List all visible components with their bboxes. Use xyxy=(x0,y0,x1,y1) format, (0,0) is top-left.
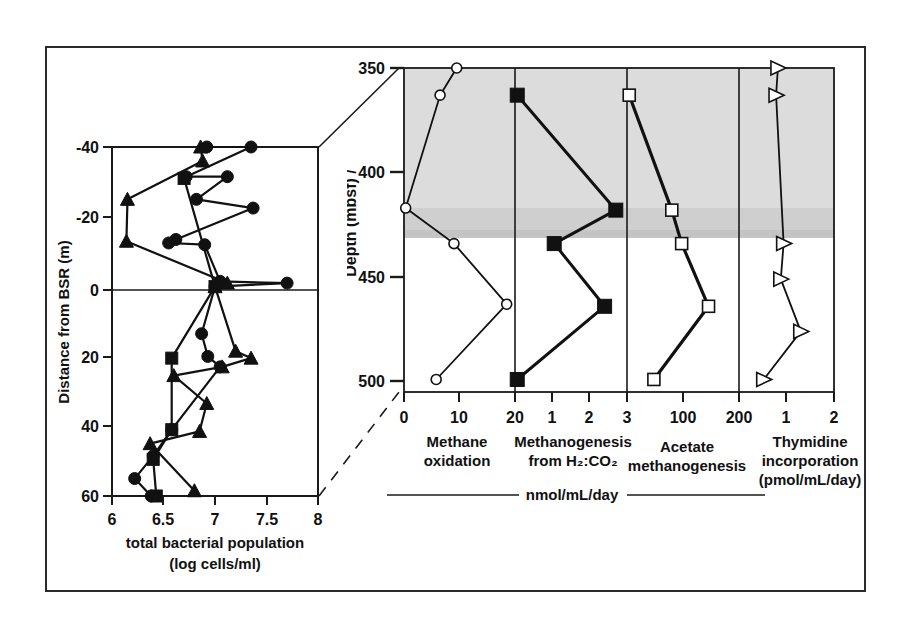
x-tick-label: 100 xyxy=(670,409,697,426)
left-y-ticks xyxy=(103,147,112,496)
caption-thymidine-l2: incorporation xyxy=(762,452,859,469)
right-x-ticklabels: 0 10 20 1 2 3 100 200 1 2 xyxy=(400,409,839,426)
series-line-site-b xyxy=(126,147,251,491)
y-tick-label: 60 xyxy=(81,488,99,505)
circlefilled-marker xyxy=(190,193,202,205)
left-yaxis-label: Distance from BSR (m) xyxy=(55,240,72,403)
caption-thymidine-l3: (pmol/mL/day) xyxy=(759,471,862,488)
circleopen-marker xyxy=(435,90,445,100)
x-tick-label: 1 xyxy=(548,409,557,426)
squarefilled-marker xyxy=(510,372,524,386)
caption-thymidine-l1: Thymidine xyxy=(772,433,847,450)
circlefilled-marker xyxy=(247,202,259,214)
circlefilled-marker xyxy=(202,350,214,362)
x-tick-label: 2 xyxy=(830,409,839,426)
subpanel-captions: Methane oxidation Methanogenesis from H₂… xyxy=(424,433,862,488)
squarefilled-marker xyxy=(166,352,178,364)
circleopen-marker xyxy=(401,203,411,213)
circleopen-marker xyxy=(452,63,462,73)
circlefilled-marker xyxy=(129,473,141,485)
left-x-ticklabels: 6 6.5 7 7.5 8 xyxy=(108,511,323,528)
series-line-site-a xyxy=(135,147,287,496)
y-tick-label: 0 xyxy=(90,282,99,299)
caption-methanogenesis-l1: Methanogenesis xyxy=(514,433,632,450)
right-y-ticks xyxy=(390,68,404,381)
x-tick-label: 6 xyxy=(108,511,117,528)
left-xaxis-label-line1: total bacterial population xyxy=(126,534,304,551)
circlefilled-marker xyxy=(196,328,208,340)
squarefilled-marker xyxy=(209,281,221,293)
circleopen-marker xyxy=(502,299,512,309)
squareopen-marker xyxy=(648,373,660,385)
left-y-ticklabels: -40 -20 0 20 40 60 xyxy=(76,139,99,505)
caption-methanogenesis-l2: from H₂:CO₂ xyxy=(528,452,617,469)
units-rule-group: nmol/mL/day xyxy=(387,486,765,503)
circlefilled-marker xyxy=(221,171,233,183)
x-tick-label: 6.5 xyxy=(152,511,174,528)
x-tick-label: 20 xyxy=(506,409,524,426)
units-label: nmol/mL/day xyxy=(526,486,619,503)
x-tick-label: 3 xyxy=(623,409,632,426)
caption-methane-oxidation-l2: oxidation xyxy=(424,452,491,469)
depth-tick-label: 350 xyxy=(358,60,385,77)
x-tick-label: 7 xyxy=(211,511,220,528)
squarefilled-marker xyxy=(510,88,524,102)
x-tick-label: 2 xyxy=(585,409,594,426)
x-tick-label: 8 xyxy=(314,511,323,528)
circlefilled-marker xyxy=(199,239,211,251)
caption-acetate-l2: methanogenesis xyxy=(628,457,746,474)
x-tick-label: 200 xyxy=(726,409,753,426)
depth-tick-label: 500 xyxy=(358,373,385,390)
left-xaxis-label-line2: (log cells/ml) xyxy=(169,555,261,572)
depth-axis-label: Depth (mbsf) / xyxy=(347,169,359,277)
squarefilled-marker xyxy=(147,453,159,465)
y-tick-label: 20 xyxy=(81,349,99,366)
circleopen-marker xyxy=(431,374,441,384)
figure-border: -40 -20 0 20 40 60 6 6.5 7 7.5 8 total b… xyxy=(45,46,866,592)
squarefilled-marker xyxy=(166,424,178,436)
right-panel-chart: 350 400 450 500 Depth (mbsf) / 0 10 20 1… xyxy=(347,48,868,594)
y-tick-label: -40 xyxy=(76,139,99,156)
x-tick-label: 0 xyxy=(400,409,409,426)
right-x-ticks xyxy=(404,392,834,402)
circlefilled-marker xyxy=(163,237,175,249)
caption-methane-oxidation-l1: Methane xyxy=(427,433,488,450)
squareopen-marker xyxy=(676,238,688,250)
squareopen-marker xyxy=(666,204,678,216)
squarefilled-marker xyxy=(178,172,190,184)
x-tick-label: 10 xyxy=(450,409,468,426)
x-tick-label: 1 xyxy=(782,409,791,426)
trianglefilled-marker xyxy=(229,344,243,357)
y-tick-label: 40 xyxy=(81,418,99,435)
squareopen-marker xyxy=(623,89,635,101)
depth-tick-label: 450 xyxy=(358,269,385,286)
circlefilled-marker xyxy=(281,277,293,289)
x-tick-label: 7.5 xyxy=(256,511,278,528)
trianglefilled-marker xyxy=(119,234,133,247)
left-panel-chart: -40 -20 0 20 40 60 6 6.5 7 7.5 8 total b… xyxy=(47,48,377,594)
circleopen-marker xyxy=(449,239,459,249)
squarefilled-marker xyxy=(547,237,561,251)
left-plot-frame xyxy=(112,147,318,496)
trianglefilled-marker xyxy=(120,192,134,205)
trianglefilled-marker xyxy=(196,154,210,167)
y-tick-label: -20 xyxy=(76,209,99,226)
squarefilled-marker xyxy=(598,299,612,313)
squarefilled-marker xyxy=(609,203,623,217)
trianglefilled-marker xyxy=(193,424,207,437)
squareopen-marker xyxy=(703,300,715,312)
circlefilled-marker xyxy=(245,141,257,153)
trianglefilled-marker xyxy=(244,351,258,364)
caption-acetate-l1: Acetate xyxy=(660,438,714,455)
right-y-ticklabels: 350 400 450 500 xyxy=(358,60,385,390)
depth-tick-label: 400 xyxy=(358,164,385,181)
squarefilled-marker xyxy=(150,490,162,502)
left-panel-data xyxy=(119,140,293,502)
left-x-ticks xyxy=(112,496,318,505)
